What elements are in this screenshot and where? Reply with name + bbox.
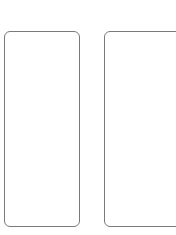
canvas xyxy=(0,0,176,235)
device-frame-right xyxy=(104,31,176,227)
device-frame-left xyxy=(4,31,80,227)
